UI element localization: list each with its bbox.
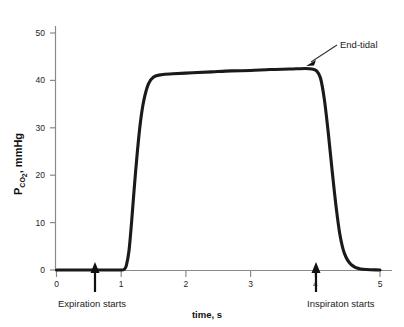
- x-tick-label-0: 0: [54, 279, 59, 289]
- y-tick-label-20: 20: [36, 170, 46, 180]
- y-axis-title-p: P: [12, 188, 24, 195]
- y-axis-title-unit: , mmHg: [12, 133, 24, 173]
- y-tick-label-50: 50: [36, 28, 46, 38]
- y-axis-title-sub: CO: [19, 177, 26, 188]
- y-tick-label-10: 10: [36, 218, 46, 228]
- y-tick-label-0: 0: [40, 265, 45, 275]
- y-tick-label-30: 30: [36, 123, 46, 133]
- x-tick-label-3: 3: [248, 279, 253, 289]
- expiration-starts-label: Expiration starts: [58, 298, 126, 309]
- x-axis-title: time, s: [192, 309, 222, 320]
- x-tick-label-5: 5: [378, 279, 383, 289]
- y-tick-label-40: 40: [36, 75, 46, 85]
- inspiration-starts-label: Inspiraton starts: [307, 298, 375, 309]
- end-tidal-label: End-tidal: [340, 39, 378, 50]
- capnogram-chart: 01020304050 012345 PCO2, mmHg time, s En…: [0, 0, 404, 327]
- x-tick-label-2: 2: [184, 279, 189, 289]
- x-tick-label-1: 1: [119, 279, 124, 289]
